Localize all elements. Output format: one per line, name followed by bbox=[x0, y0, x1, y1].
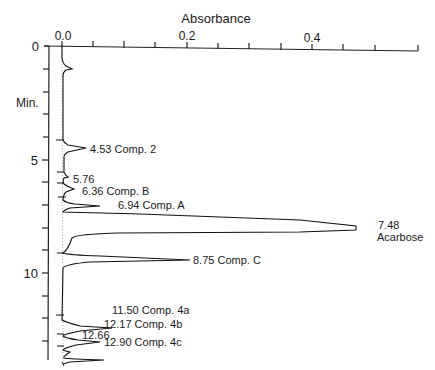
chromatogram-chart: Absorbance Min. 0.0 0.2 0.4 0 5 10 bbox=[0, 0, 435, 370]
peak-label-6.36: 6.36 Comp. B bbox=[82, 185, 149, 197]
x-axis-title: Absorbance bbox=[181, 11, 250, 26]
peak-label-12.17: 12.17 Comp. 4b bbox=[104, 318, 182, 330]
peak-label-7.48: 7.48 bbox=[378, 219, 399, 231]
x-tick-label-0.4: 0.4 bbox=[304, 31, 321, 45]
y-tick-label-5: 5 bbox=[31, 153, 38, 168]
peak-label-5.76: 5.76 bbox=[73, 173, 94, 185]
x-tick-label-0.2: 0.2 bbox=[179, 29, 196, 43]
peak-label-11.50: 11.50 Comp. 4a bbox=[112, 304, 190, 316]
peak-label-12.90: 12.90 Comp. 4c bbox=[104, 336, 182, 348]
y-tick-label-0: 0 bbox=[32, 39, 39, 54]
peak-label-4.53: 4.53 Comp. 2 bbox=[90, 143, 156, 155]
y-axis-title: Min. bbox=[16, 96, 39, 110]
y-tick-label-10: 10 bbox=[24, 266, 38, 281]
peak-label-8.75: 8.75 Comp. C bbox=[193, 254, 261, 266]
peak-label-6.94: 6.94 Comp. A bbox=[118, 199, 185, 211]
x-tick-label-0: 0.0 bbox=[55, 29, 72, 43]
axes bbox=[42, 41, 418, 360]
chromatogram-trace bbox=[62, 46, 356, 364]
peak-label-acarbose: Acarbose bbox=[377, 231, 423, 243]
